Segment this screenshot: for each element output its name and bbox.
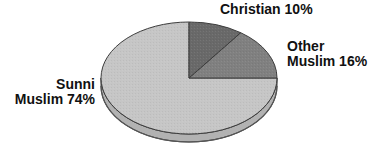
label-other-muslim: Other Muslim 16% <box>287 39 367 69</box>
label-other-line2: Muslim 16% <box>287 54 367 69</box>
label-other-line1: Other <box>287 39 367 54</box>
label-christian-line1: Christian 10% <box>220 2 313 17</box>
label-sunni-line1: Sunni <box>0 77 95 92</box>
pie-texture <box>101 22 277 134</box>
label-sunni-muslim: Sunni Muslim 74% <box>0 77 95 107</box>
label-sunni-line2: Muslim 74% <box>0 92 95 107</box>
label-christian: Christian 10% <box>220 2 313 17</box>
